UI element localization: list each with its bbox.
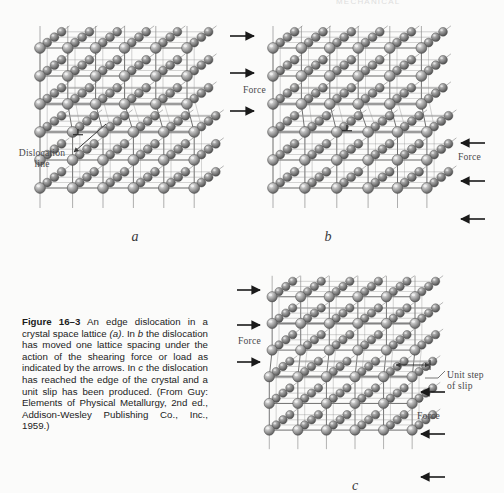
panel-a-letter: a	[125, 229, 145, 245]
figure-caption: Figure 16–3 An edge dislocation in a cry…	[22, 316, 208, 432]
dislocation-leader-a	[60, 120, 110, 160]
panel-b-lattice	[255, 22, 465, 232]
panel-c-letter: c	[345, 478, 365, 493]
panel-b-letter: b	[318, 229, 338, 245]
figure-page: MECHANICAL	[0, 0, 504, 493]
unit-step-dimension	[392, 356, 454, 390]
panel-a-lattice	[22, 22, 232, 232]
force-arrows-c-right	[415, 385, 449, 490]
caption-rich: Figure 16–3 An edge dislocation in a cry…	[22, 316, 208, 431]
force-arrows-b-left	[228, 28, 262, 128]
force-arrows-c-left	[236, 280, 266, 380]
running-head: MECHANICAL	[336, 0, 476, 7]
force-arrows-b-right	[455, 135, 489, 235]
